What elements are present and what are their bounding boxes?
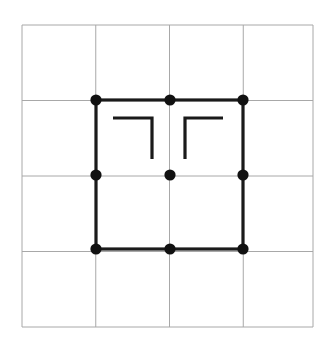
v-mid-right[interactable] [237, 169, 248, 180]
lattice-figure [0, 0, 330, 352]
diagram-canvas [0, 0, 330, 352]
v-mid-left[interactable] [90, 169, 101, 180]
v-top-left[interactable] [90, 94, 101, 105]
v-bottom-mid[interactable] [164, 243, 175, 254]
v-bottom-left[interactable] [90, 243, 101, 254]
v-top-mid[interactable] [164, 94, 175, 105]
v-top-right[interactable] [237, 94, 248, 105]
v-bottom-right[interactable] [237, 243, 248, 254]
v-center[interactable] [164, 169, 175, 180]
